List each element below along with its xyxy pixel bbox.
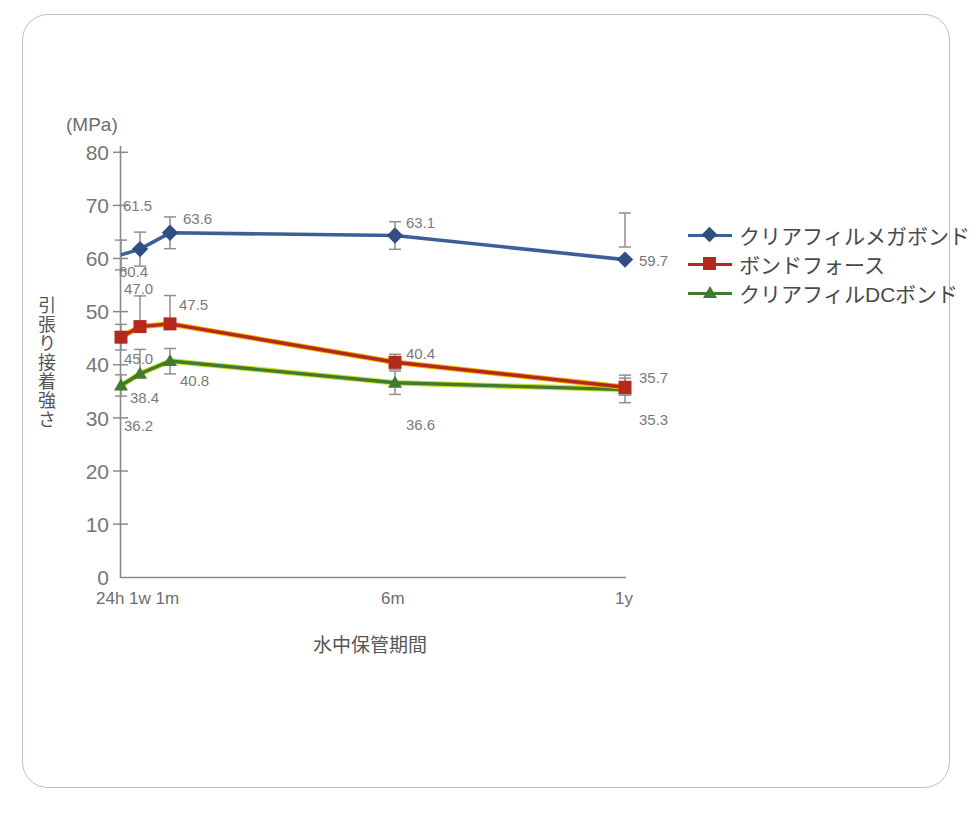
x-tick-left-cluster: 24h 1w 1m xyxy=(96,590,179,607)
legend-label-bondforce: ボンドフォース xyxy=(739,249,885,279)
data-label-red-1y: 35.7 xyxy=(639,370,668,385)
y-axis-unit-label: (MPa) xyxy=(66,115,118,134)
data-label-green-6m: 36.6 xyxy=(406,417,435,432)
y-tick-80: 80 xyxy=(65,142,109,163)
legend-item-bondforce[interactable]: ボンドフォース xyxy=(688,251,970,277)
data-label-green-1w: 38.4 xyxy=(130,390,159,405)
data-label-red-1m: 47.5 xyxy=(179,297,208,312)
y-axis-title: 引張り接着強さ xyxy=(36,296,54,429)
data-label-blue-1m: 63.6 xyxy=(183,211,212,226)
y-tick-60: 60 xyxy=(65,248,109,269)
chart-plot-area xyxy=(0,0,973,820)
y-tick-70: 70 xyxy=(65,195,109,216)
y-tick-0: 0 xyxy=(65,567,109,588)
legend-marker-diamond-icon xyxy=(688,227,732,243)
data-label-green-24h: 36.2 xyxy=(124,418,153,433)
x-tick-1y: 1y xyxy=(615,590,633,607)
blue-line xyxy=(121,233,625,260)
legend-item-megabond[interactable]: クリアフィルメガボンド xyxy=(688,222,970,248)
data-label-blue-24h: 60.4 xyxy=(119,264,148,279)
x-tick-6m: 6m xyxy=(381,590,405,607)
legend-label-dcbond: クリアフィルDCボンド xyxy=(739,278,958,308)
legend-marker-triangle-icon xyxy=(688,285,732,301)
data-label-blue-1w: 61.5 xyxy=(123,198,152,213)
y-tick-20: 20 xyxy=(65,461,109,482)
data-label-blue-1y: 59.7 xyxy=(639,253,668,268)
y-tick-50: 50 xyxy=(65,301,109,322)
chart-legend: クリアフィルメガボンド ボンドフォース クリアフィルDCボンド xyxy=(688,222,970,309)
y-tick-10: 10 xyxy=(65,514,109,535)
data-label-blue-6m: 63.1 xyxy=(406,215,435,230)
data-label-red-24h: 45.0 xyxy=(124,351,153,366)
legend-marker-square-icon xyxy=(688,256,732,272)
data-label-red-6m: 40.4 xyxy=(406,346,435,361)
data-label-green-1m: 40.8 xyxy=(180,373,209,388)
y-tick-30: 30 xyxy=(65,408,109,429)
y-tick-40: 40 xyxy=(65,354,109,375)
data-label-green-1y: 35.3 xyxy=(639,412,668,427)
legend-label-megabond: クリアフィルメガボンド xyxy=(739,220,970,250)
x-axis-title: 水中保管期間 xyxy=(313,636,427,655)
legend-item-dcbond[interactable]: クリアフィルDCボンド xyxy=(688,280,970,306)
data-label-red-1w: 47.0 xyxy=(124,281,153,296)
